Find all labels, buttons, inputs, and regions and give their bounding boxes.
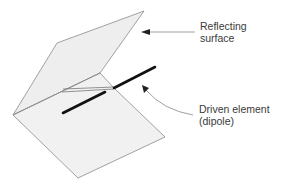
- driven-element-label-line2: (dipole): [199, 115, 270, 127]
- reflecting-surface-label-line2: surface: [200, 32, 247, 44]
- dipole-back-arm: [114, 67, 155, 88]
- driven-element-label-line1: Driven element: [199, 103, 270, 115]
- arrowhead-icon: [141, 29, 150, 35]
- reflecting-surface-label-line1: Reflecting: [200, 20, 247, 32]
- reflecting-surface-label: Reflecting surface: [200, 20, 247, 44]
- driven-element-arrow: [146, 90, 193, 115]
- driven-element-label: Driven element (dipole): [199, 103, 270, 127]
